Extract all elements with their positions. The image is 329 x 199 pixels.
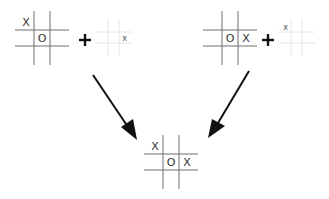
arrow-left-to-result <box>93 75 137 140</box>
cell-mark-x: X <box>242 32 250 45</box>
board-right-state: OX <box>203 11 257 65</box>
board-left-state: XO <box>15 11 69 65</box>
board-left-move-hint: x <box>95 19 132 56</box>
cell-mark-x: X <box>183 156 191 169</box>
plus-operator-left <box>79 34 91 46</box>
board-result: XOX <box>144 135 198 189</box>
arrow-right-to-result <box>208 71 249 138</box>
cell-mark-o: O <box>167 156 176 169</box>
cell-mark-o: O <box>226 32 235 45</box>
cell-mark-x: x <box>122 34 127 43</box>
diagram-canvas: XO x OX x XOX <box>0 0 329 199</box>
cell-mark-x: X <box>151 140 159 153</box>
cell-mark-x: x <box>283 23 288 32</box>
plus-operator-right <box>262 34 274 46</box>
board-right-move-hint: x <box>278 19 315 56</box>
cell-mark-o: O <box>38 32 47 45</box>
cell-mark-x: X <box>22 16 30 29</box>
